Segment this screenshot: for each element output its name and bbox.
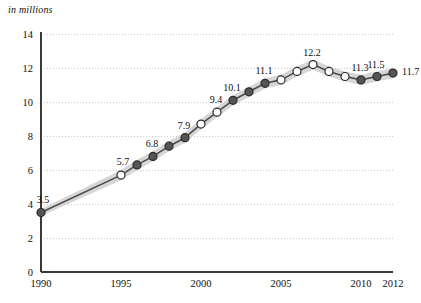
- y-axis-tick-10: 10: [11, 97, 33, 108]
- point-label-1997: 6.8: [146, 138, 159, 149]
- x-axis-tick-2000: 2000: [181, 278, 221, 289]
- x-axis-tick-1995: 1995: [101, 278, 141, 289]
- point-label-2011: 11.5: [367, 59, 384, 70]
- y-axis-tick-6: 6: [11, 165, 33, 176]
- y-axis-tick-8: 8: [11, 131, 33, 142]
- point-label-2002: 10.1: [223, 82, 241, 93]
- y-axis-tick-0: 0: [11, 267, 33, 278]
- y-axis-tick-2: 2: [11, 233, 33, 244]
- chart-container: in millions 02468101214 1990199520002005…: [0, 0, 421, 303]
- point-label-2004: 11.1: [255, 65, 272, 76]
- point-label-2007: 12.2: [303, 47, 321, 58]
- point-label-2010: 11.3: [351, 62, 368, 73]
- point-label-1995: 5.7: [117, 156, 130, 167]
- point-label-2012: 11.7: [402, 66, 419, 77]
- y-axis-tick-12: 12: [11, 63, 33, 74]
- x-axis-tick-1990: 1990: [21, 278, 61, 289]
- confidence-band: [41, 60, 393, 216]
- gridlines-group: [41, 34, 393, 238]
- y-axis-tick-14: 14: [11, 29, 33, 40]
- line-chart-plot: [0, 0, 421, 303]
- point-label-2001: 9.4: [210, 94, 223, 105]
- y-axis-tick-4: 4: [11, 199, 33, 210]
- point-label-1990: 3.5: [37, 194, 50, 205]
- point-label-1999: 7.9: [178, 120, 191, 131]
- axes-group: [41, 32, 393, 272]
- x-axis-tick-2005: 2005: [261, 278, 301, 289]
- x-axis-tick-2012: 2012: [373, 278, 413, 289]
